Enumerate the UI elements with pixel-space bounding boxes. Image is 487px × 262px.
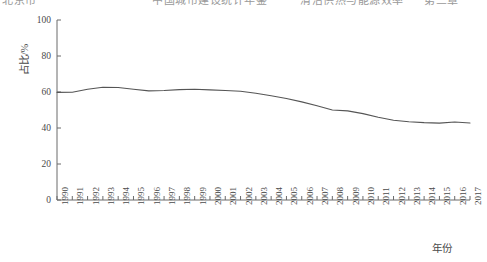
x-axis-tick-label: 2008: [336, 187, 345, 205]
x-axis-tick-label: 2000: [214, 187, 223, 205]
x-axis-tick-label: 2014: [428, 187, 437, 205]
y-axis-tick-label: 60: [25, 87, 51, 97]
x-axis-tick-label: 2010: [367, 187, 376, 205]
x-axis-tick-label: 1991: [76, 187, 85, 205]
x-axis-tick-label: 2016: [459, 187, 468, 205]
x-axis-tick-label: 1996: [153, 187, 162, 205]
x-axis-tick-label: 2007: [321, 187, 330, 205]
x-axis-tick-label: 2004: [275, 187, 284, 205]
y-axis-tick-label: 0: [25, 195, 51, 205]
x-axis-tick-label: 2002: [245, 187, 254, 205]
x-axis-tick-label: 2017: [474, 187, 483, 205]
x-axis-tick-label: 2009: [352, 187, 361, 205]
line-chart-figure: 占比/% 年份 020406080100 1990199119921993199…: [0, 0, 487, 262]
x-axis-tick-label: 2011: [382, 187, 391, 205]
x-axis-tick-label: 1992: [92, 187, 101, 205]
y-axis-tick-label: 40: [25, 123, 51, 133]
x-axis-tick-label: 1997: [168, 187, 177, 205]
x-axis-title: 年份: [432, 240, 452, 255]
x-axis-tick-label: 1993: [107, 187, 116, 205]
x-axis-tick-label: 2005: [290, 187, 299, 205]
x-axis-tick-label: 2006: [306, 187, 315, 205]
x-axis-tick-label: 2015: [443, 187, 452, 205]
x-axis-tick-label: 2003: [260, 187, 269, 205]
y-axis-tick-label: 100: [25, 15, 51, 25]
data-series-line: [57, 87, 470, 123]
y-axis-tick-label: 80: [25, 51, 51, 61]
x-axis-tick-label: 2013: [413, 187, 422, 205]
x-axis-tick-label: 2012: [398, 187, 407, 205]
y-axis-ticks: [57, 20, 61, 200]
x-axis-tick-label: 2001: [229, 187, 238, 205]
x-axis-tick-label: 1999: [199, 187, 208, 205]
chart-plot-area: [0, 0, 487, 262]
x-axis-tick-label: 1990: [61, 187, 70, 205]
x-axis-tick-label: 1995: [137, 187, 146, 205]
y-axis-tick-label: 20: [25, 159, 51, 169]
x-axis-tick-label: 1994: [122, 187, 131, 205]
x-axis-tick-label: 1998: [183, 187, 192, 205]
